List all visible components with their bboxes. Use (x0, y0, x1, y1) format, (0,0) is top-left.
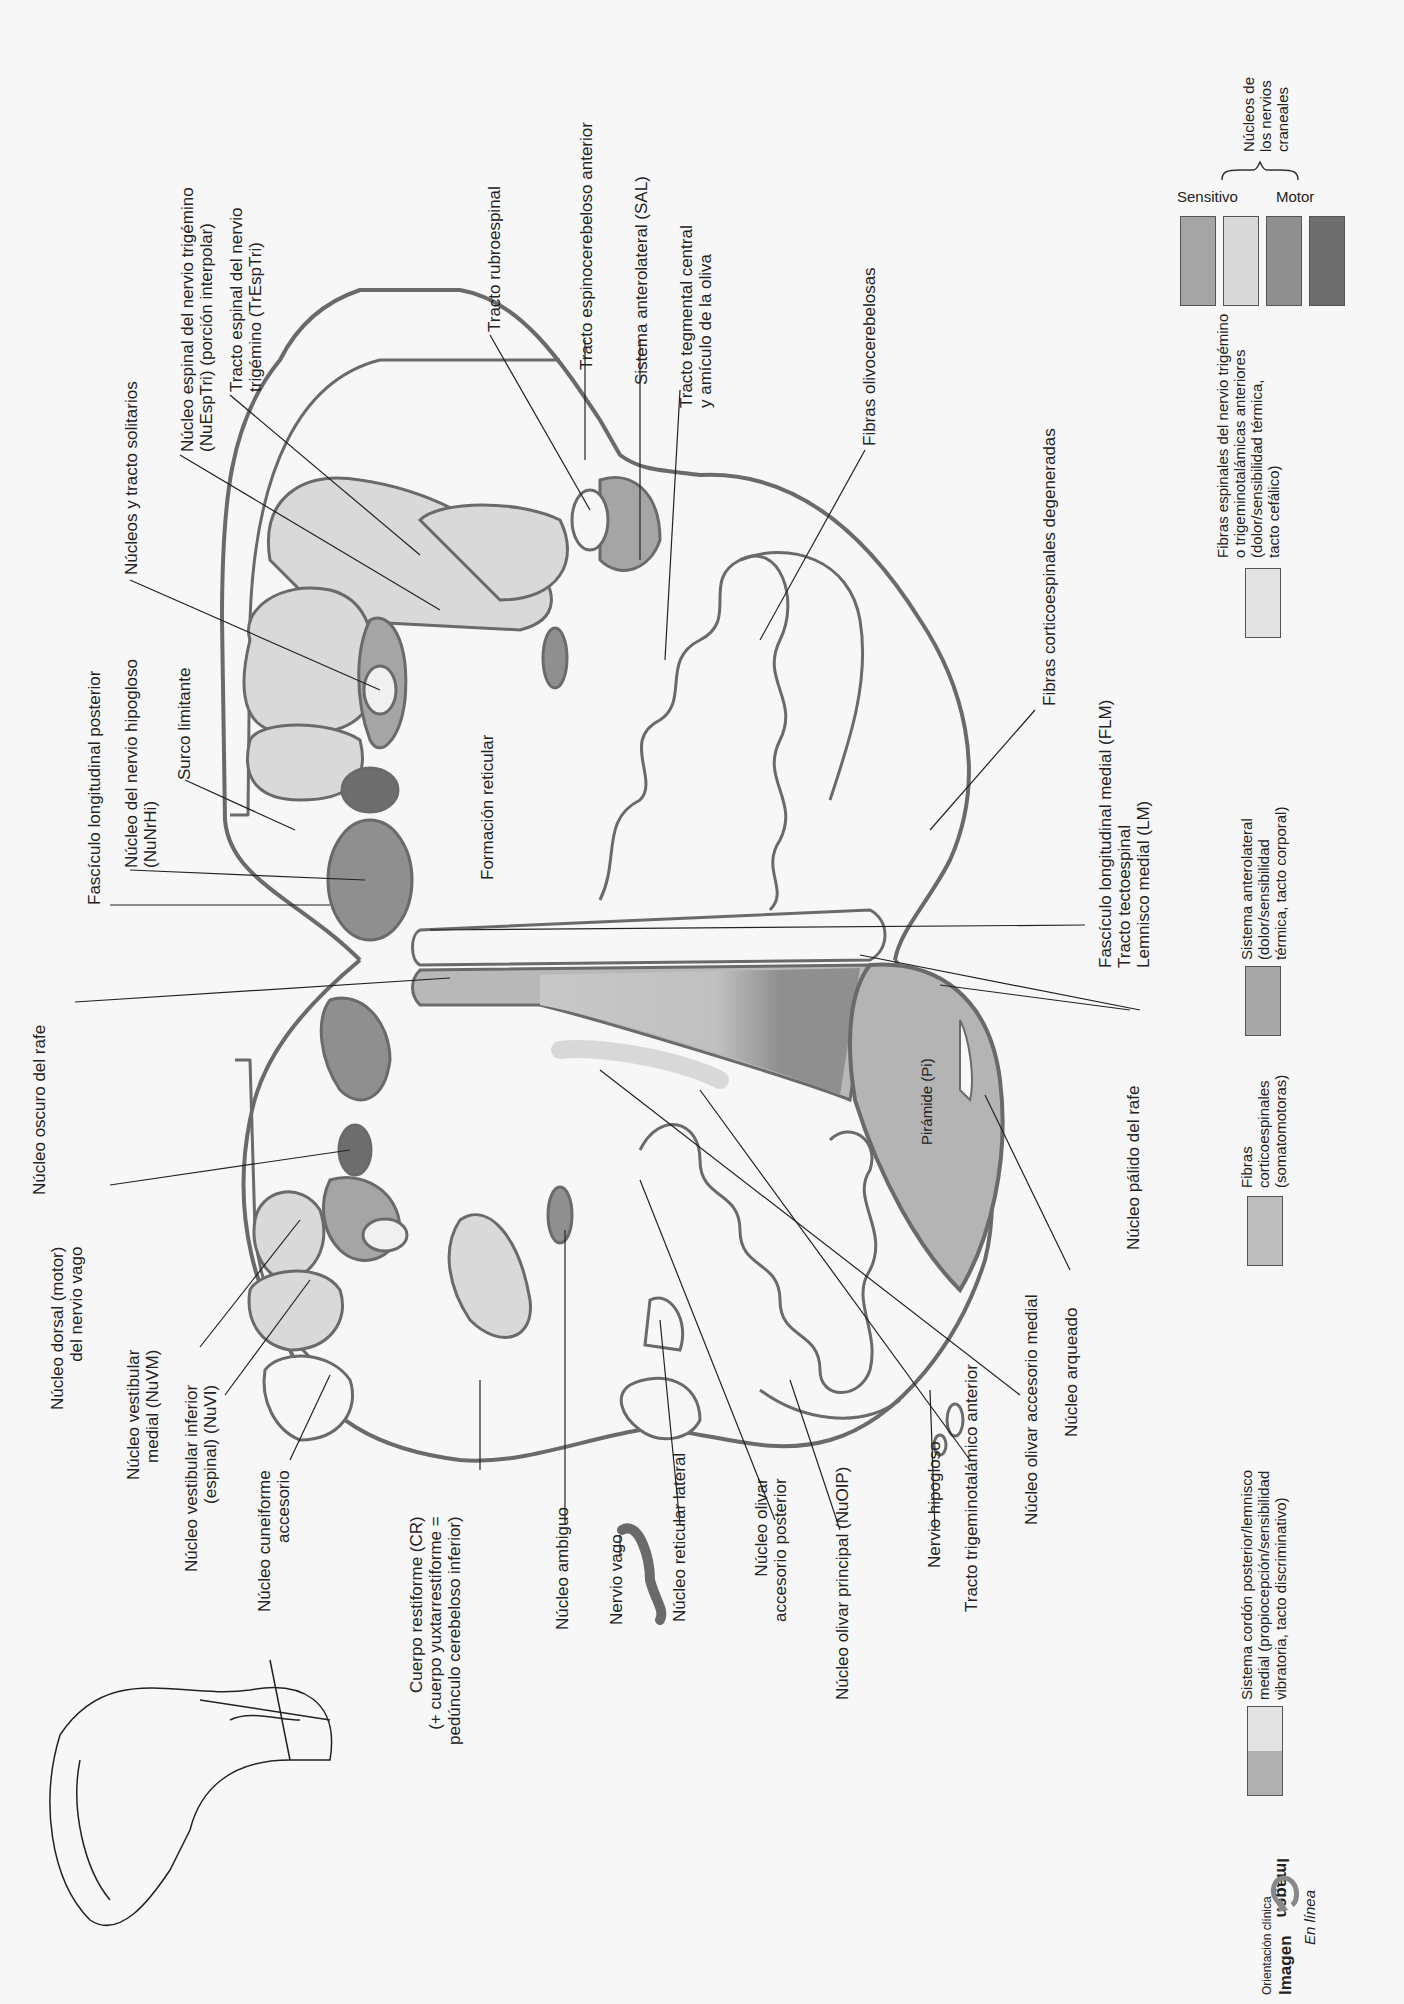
swatch-trigeminal-fibers (1245, 568, 1281, 638)
image-word-flipped: Imagen (1272, 1858, 1292, 1918)
label-sistema-anterolateral: Sistema anterolateral (SAL) (632, 176, 651, 385)
inferior-olive-lower (640, 1125, 876, 1393)
vestibular-nucleus-upper (244, 588, 374, 734)
inferior-olive-upper (600, 556, 788, 910)
label-nervio-vago: Nervio vago (607, 1534, 626, 1625)
legend-trigeminales-text: Fibras espinales del nervio trigéminoo t… (1214, 314, 1282, 558)
vagus-nerve-shape (622, 1528, 661, 1620)
solitary-tract-lower-hatched (363, 1219, 407, 1251)
hypoglossal-nucleus-upper (328, 820, 412, 940)
label-surco-limitante: Surco limitante (175, 668, 194, 780)
label-nucleo-olivar-principal: Núcleo olivar principal (NuOIP) (833, 1467, 852, 1700)
swatch-sensory-medium (1180, 216, 1216, 306)
legend-motor-label: Motor (1276, 188, 1314, 205)
label-cuerpo-restiforme: Cuerpo restiforme (CR)(+ cuerpo yuxtarre… (407, 1516, 464, 1745)
label-nucleo-vestibular-medial: Núcleo vestibularmedial (NuVM) (124, 1350, 162, 1480)
label-nucleo-olivar-accesorio-posterior: Núcleo olivaraccesorio posterior (752, 1478, 790, 1622)
label-fasciculo-longitudinal-posterior: Fascículo longitudinal posterior (85, 671, 104, 905)
label-nervio-hipogloso: Nervio hipogloso (925, 1441, 944, 1568)
label-tracto-tegmental-central: Tracto tegmental centraly amículo de la … (677, 225, 715, 408)
dorsal-vagal-nucleus-lower (339, 1125, 371, 1175)
label-nucleo-ambiguo: Núcleo ambiguo (553, 1507, 572, 1630)
label-fibras-corticoespinales-degeneradas: Fibras corticoespinales degeneradas (1040, 428, 1059, 706)
cuneiform-nucleus-shape (264, 1356, 353, 1440)
legend-sensory-label: Sensitivo (1177, 188, 1238, 205)
swatch-dorsal-column (1247, 1706, 1283, 1796)
label-piramide: Pirámide (Pi) (918, 1058, 935, 1145)
label-tracto-trigeminotalamico-anterior: Tracto trigeminotalámico anterior (962, 1364, 981, 1612)
swatch-sensory-light (1223, 216, 1259, 306)
swatch-motor-medium (1266, 216, 1302, 306)
label-nucleo-olivar-accesorio-medial: Núcleo olivar accesorio medial (1022, 1294, 1041, 1525)
label-nucleo-cuneiforme-accesorio: Núcleo cuneiformeaccesorio (255, 1470, 293, 1612)
label-nucleos-tracto-solitarios: Núcleos y tracto solitarios (122, 381, 141, 575)
swatch-corticospinal (1247, 1196, 1283, 1266)
hypoglossal-nucleus-lower (321, 998, 390, 1100)
label-fibras-olivocerebelosas: Fibras olivocerebelosas (860, 267, 879, 446)
trigeminal-nucleus-lower-shape (449, 1215, 530, 1338)
label-formacion-reticular: Formación reticular (478, 735, 497, 881)
label-nucleo-reticular-lateral: Núcleo reticular lateral (670, 1453, 689, 1622)
vestibular-nucleus-inferior-shape (249, 1271, 342, 1350)
legend-anterolateral-text: Sistema anterolateral(dolor/sensibilidad… (1238, 807, 1289, 960)
label-nucleo-hipogloso: Núcleo del nervio hipogloso(NuNrHi) (122, 659, 160, 868)
label-nucleo-vestibular-inferior: Núcleo vestibular inferior(espinal) (NuV… (182, 1385, 220, 1572)
medial-lemniscus-upper (413, 910, 886, 965)
image-word: Imagen (1276, 1935, 1295, 1995)
label-nucleo-arqueado: Núcleo arqueado (1062, 1308, 1081, 1437)
label-tracto-espinal-trigemino: Tracto espinal del nerviotrigémino (TrEs… (227, 207, 265, 392)
orientation-brain-sketch (50, 1660, 332, 1925)
swatch-anterolateral (1245, 966, 1281, 1036)
label-nucleo-dorsal-vago: Núcleo dorsal (motor)del nervio vago (48, 1247, 86, 1410)
vestibular-nucleus-medial-shape (254, 1192, 324, 1280)
label-tracto-rubroespinal: Tracto rubroespinal (485, 186, 504, 332)
label-tracto-espinocerebeloso-anterior: Tracto espinocerebeloso anterior (577, 122, 596, 370)
label-nucleo-espinal-trigemino: Núcleo espinal del nervio trigémino(NuEs… (178, 187, 216, 452)
online-label: En línea (1300, 1890, 1319, 1945)
legend-cranial-title: Núcleos de los nervios craneales (1240, 77, 1291, 152)
dorsal-vagal-nucleus-upper (342, 768, 398, 812)
label-flm-group: Fascículo longitudinal medial (FLM)Tract… (1096, 700, 1153, 968)
label-nucleo-palido-rafe: Núcleo pálido del rafe (1124, 1086, 1143, 1250)
legend-cordon-posterior-text: Sistema cordón posterior/lemniscomedial … (1238, 1470, 1289, 1700)
label-nucleo-oscuro-rafe: Núcleo oscuro del rafe (30, 1025, 49, 1195)
swatch-motor-dark (1309, 216, 1345, 306)
legend-corticoespinales-text: Fibrascorticoespinales(somatomotoras) (1238, 1075, 1289, 1188)
